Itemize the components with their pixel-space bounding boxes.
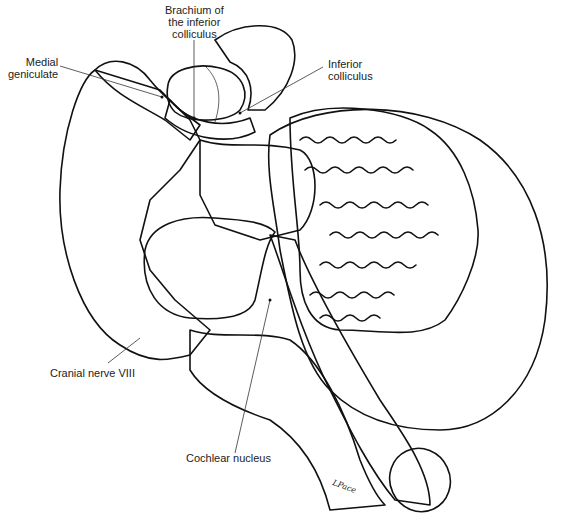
flocculus-folia — [290, 108, 478, 332]
brainstem-drawing — [0, 0, 563, 526]
stalk-cut-end — [379, 438, 460, 521]
medial-geniculate-shape — [95, 61, 200, 140]
thalamus-outline — [60, 70, 210, 359]
nerve-stalk — [270, 235, 430, 505]
cerebellum-outline — [269, 109, 548, 430]
cut-surface — [144, 217, 275, 318]
medulla — [190, 330, 385, 510]
colliculus-shape — [167, 66, 245, 120]
brainstem-illustration: Brachium of the inferior colliculus Medi… — [0, 0, 563, 526]
label-medial-geniculate: Medial geniculate — [8, 56, 58, 80]
label-inferior-colliculus: Inferior colliculus — [328, 58, 373, 82]
leader-lines — [60, 40, 323, 453]
superior-dome — [215, 26, 295, 110]
label-brachium-inferior-colliculus: Brachium of the inferior colliculus — [165, 4, 224, 40]
label-cranial-nerve-viii: Cranial nerve VIII — [50, 367, 135, 379]
label-cochlear-nucleus: Cochlear nucleus — [186, 452, 271, 464]
folia-lines — [300, 137, 438, 321]
